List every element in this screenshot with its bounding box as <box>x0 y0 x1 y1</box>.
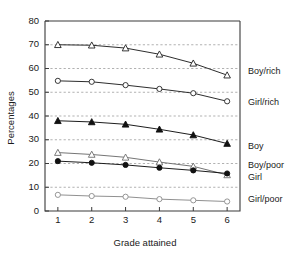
data-point <box>123 194 128 199</box>
data-point <box>225 171 230 176</box>
y-tick-label: 80 <box>28 15 39 26</box>
data-point <box>191 168 196 173</box>
data-point <box>157 197 162 202</box>
x-tick-label: 4 <box>157 214 162 225</box>
y-axis-title: Percentages <box>5 91 16 145</box>
data-point <box>157 165 162 170</box>
series-line <box>58 81 227 101</box>
gridlines <box>46 45 239 188</box>
y-tick-label: 60 <box>28 62 39 73</box>
data-series <box>55 41 231 204</box>
x-axis-title: Grade attained <box>114 237 177 248</box>
y-tick-label: 30 <box>28 133 39 144</box>
data-point <box>55 159 60 164</box>
series-label-boy-rich: Boy/rich <box>248 66 281 76</box>
series-girl <box>55 149 231 177</box>
data-point <box>89 160 94 165</box>
data-point <box>123 162 128 167</box>
series-boy-rich <box>55 41 231 78</box>
series-label-girl: Girl <box>248 172 262 182</box>
series-line <box>58 195 227 202</box>
x-tick-label: 6 <box>224 214 229 225</box>
y-tick-label: 40 <box>28 110 39 121</box>
data-point <box>55 78 60 83</box>
data-point <box>157 86 162 91</box>
y-tick-label: 10 <box>28 181 39 192</box>
series-label-girl-rich: Girl/rich <box>248 97 279 107</box>
line-chart: 01020304050607080 123456 Boy/richGirl/ri… <box>0 0 307 255</box>
data-point <box>225 199 230 204</box>
series-girl-poor <box>55 192 229 204</box>
series-label-boy-poor: Boy/poor <box>248 160 284 170</box>
y-tick-label: 20 <box>28 157 39 168</box>
series-girl-rich <box>55 78 229 104</box>
x-tick-label: 5 <box>191 214 196 225</box>
series-line <box>58 161 227 173</box>
data-point <box>123 83 128 88</box>
data-point <box>191 91 196 96</box>
y-tick-label: 0 <box>34 205 39 216</box>
y-tick-label: 50 <box>28 86 39 97</box>
series-boy <box>55 117 231 146</box>
data-point <box>55 192 60 197</box>
x-tick-label: 1 <box>55 214 60 225</box>
series-boy-poor <box>55 159 229 177</box>
data-point <box>225 99 230 104</box>
y-tick-label: 70 <box>28 38 39 49</box>
y-axis-ticks: 01020304050607080 <box>28 15 49 216</box>
series-label-boy: Boy <box>248 141 264 151</box>
x-axis-ticks: 123456 <box>55 207 230 225</box>
data-point <box>191 198 196 203</box>
data-point <box>224 72 231 78</box>
series-line <box>58 45 227 75</box>
chart-container: 01020304050607080 123456 Boy/richGirl/ri… <box>0 0 307 255</box>
data-point <box>89 79 94 84</box>
series-line <box>58 121 227 144</box>
x-tick-label: 2 <box>89 214 94 225</box>
series-labels: Boy/richGirl/richBoyBoy/poorGirlGirl/poo… <box>248 66 284 203</box>
x-tick-label: 3 <box>123 214 128 225</box>
series-label-girl-poor: Girl/poor <box>248 194 283 204</box>
data-point <box>89 193 94 198</box>
